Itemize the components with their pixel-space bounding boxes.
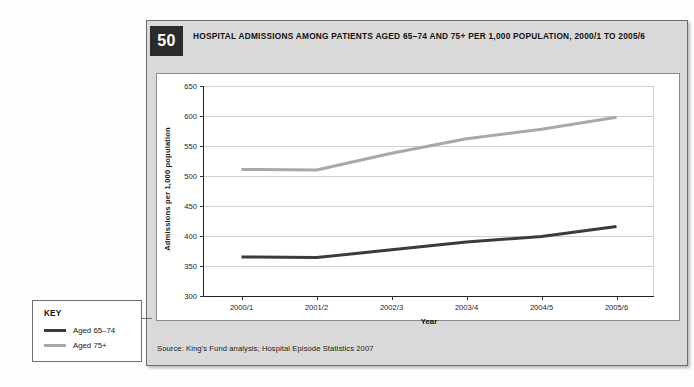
y-tick-label: 600 bbox=[184, 112, 197, 121]
key-item-label: Aged 75+ bbox=[73, 341, 107, 350]
plot-wrapper: Admissions per 1,000 population 30035040… bbox=[157, 74, 679, 320]
x-tick-mark bbox=[242, 296, 243, 300]
y-axis-title: Admissions per 1,000 population bbox=[163, 114, 175, 264]
x-tick-label: 2004/5 bbox=[530, 303, 553, 312]
y-tick-label: 400 bbox=[184, 232, 197, 241]
x-tick-label: 2002/3 bbox=[380, 303, 403, 312]
y-tick-label: 650 bbox=[184, 82, 197, 91]
plot-area: 300350400450500550600650 2000/12001/2200… bbox=[203, 86, 654, 297]
key-item: Aged 65–74 bbox=[44, 326, 141, 335]
y-tick-label: 450 bbox=[184, 202, 197, 211]
x-tick-mark bbox=[617, 296, 618, 300]
x-tick-label: 2001/2 bbox=[305, 303, 328, 312]
y-tick-label: 300 bbox=[184, 292, 197, 301]
x-tick-label: 2000/1 bbox=[230, 303, 253, 312]
figure-container: 50 HOSPITAL ADMISSIONS AMONG PATIENTS AG… bbox=[146, 20, 688, 366]
key-swatch-icon bbox=[44, 329, 66, 332]
y-tick-label: 500 bbox=[184, 172, 197, 181]
x-tick-mark bbox=[392, 296, 393, 300]
figure-header: 50 HOSPITAL ADMISSIONS AMONG PATIENTS AG… bbox=[147, 21, 687, 70]
key-item-label: Aged 65–74 bbox=[73, 326, 115, 335]
series-line bbox=[242, 117, 617, 170]
y-tick-label: 350 bbox=[184, 262, 197, 271]
key-title: KEY bbox=[44, 309, 141, 318]
figure-title: HOSPITAL ADMISSIONS AMONG PATIENTS AGED … bbox=[193, 30, 645, 43]
key-items: Aged 65–74Aged 75+ bbox=[44, 326, 141, 350]
key-legend-box: KEY Aged 65–74Aged 75+ bbox=[32, 300, 142, 362]
x-tick-mark bbox=[467, 296, 468, 300]
x-tick-mark bbox=[317, 296, 318, 300]
y-tick-mark bbox=[200, 296, 204, 297]
key-swatch-icon bbox=[44, 344, 66, 347]
key-connector-line bbox=[142, 318, 152, 319]
series-line bbox=[242, 226, 617, 257]
key-item: Aged 75+ bbox=[44, 341, 141, 350]
figure-number-badge: 50 bbox=[150, 26, 183, 56]
x-tick-mark bbox=[542, 296, 543, 300]
x-axis-title: Year bbox=[421, 317, 437, 326]
y-tick-label: 550 bbox=[184, 142, 197, 151]
series-lines bbox=[204, 86, 654, 296]
x-tick-label: 2003/4 bbox=[455, 303, 478, 312]
x-tick-label: 2005/6 bbox=[605, 303, 628, 312]
source-note: Source: King's Fund analysis; Hospital E… bbox=[157, 344, 374, 353]
page-background: 50 HOSPITAL ADMISSIONS AMONG PATIENTS AG… bbox=[0, 0, 694, 387]
chart-panel: Admissions per 1,000 population 30035040… bbox=[156, 73, 680, 321]
